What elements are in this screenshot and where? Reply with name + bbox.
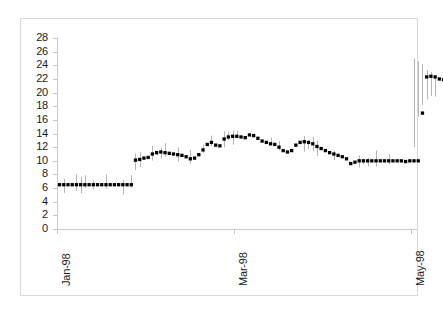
data-point-marker xyxy=(83,183,86,186)
data-point-marker xyxy=(429,75,432,78)
data-point-marker xyxy=(92,183,95,186)
data-point-marker xyxy=(58,183,61,186)
y-axis-tick-label: 8 xyxy=(24,168,48,179)
data-point-marker xyxy=(79,183,82,186)
data-point-marker xyxy=(231,135,234,138)
data-point-marker xyxy=(104,183,107,186)
data-point-marker xyxy=(163,151,166,154)
data-point-marker xyxy=(218,144,221,147)
y-axis-tick-label: 22 xyxy=(24,73,48,84)
data-point-marker xyxy=(260,139,263,142)
data-point-marker xyxy=(408,159,411,162)
data-point-marker xyxy=(180,154,183,157)
y-axis-tick-label: 12 xyxy=(24,141,48,152)
data-point-marker xyxy=(172,152,175,155)
data-point-marker xyxy=(125,183,128,186)
data-point-marker xyxy=(358,159,361,162)
data-point-marker xyxy=(168,152,171,155)
data-point-marker xyxy=(349,162,352,165)
data-point-marker xyxy=(214,144,217,147)
data-point-marker xyxy=(71,183,74,186)
close-markers-group xyxy=(58,75,443,187)
y-axis-tick-label: 14 xyxy=(24,128,48,139)
data-point-marker xyxy=(197,153,200,156)
data-point-marker xyxy=(273,143,276,146)
y-axis-tick-label: 20 xyxy=(24,87,48,98)
data-point-marker xyxy=(269,142,272,145)
data-point-marker xyxy=(75,183,78,186)
data-point-marker xyxy=(239,135,242,138)
data-point-marker xyxy=(176,153,179,156)
data-point-marker xyxy=(421,111,424,114)
data-point-marker xyxy=(324,149,327,152)
data-point-marker xyxy=(286,150,289,153)
y-axis-tick-label: 26 xyxy=(24,46,48,57)
range-lines-group xyxy=(65,58,443,194)
data-point-marker xyxy=(222,137,225,140)
data-point-marker xyxy=(121,183,124,186)
data-point-marker xyxy=(391,159,394,162)
data-point-marker xyxy=(265,141,268,144)
data-point-marker xyxy=(400,159,403,162)
data-point-marker xyxy=(404,160,407,163)
chart-figure: 0246810121416182022242628 Jan-98Mar-98Ma… xyxy=(0,0,443,319)
data-point-marker xyxy=(341,155,344,158)
data-point-marker xyxy=(438,77,441,80)
data-point-marker xyxy=(210,141,213,144)
data-point-marker xyxy=(294,144,297,147)
data-point-marker xyxy=(370,159,373,162)
data-point-marker xyxy=(353,161,356,164)
data-point-marker xyxy=(235,135,238,138)
y-axis-tick-label: 0 xyxy=(24,223,48,234)
data-point-marker xyxy=(113,183,116,186)
data-point-marker xyxy=(206,143,209,146)
data-point-marker xyxy=(66,183,69,186)
data-point-marker xyxy=(307,141,310,144)
data-point-marker xyxy=(147,156,150,159)
data-point-marker xyxy=(201,148,204,151)
data-point-marker xyxy=(282,149,285,152)
data-point-marker xyxy=(193,156,196,159)
data-point-marker xyxy=(96,183,99,186)
x-axis-tick-label: Jan-98 xyxy=(61,254,72,286)
data-point-marker xyxy=(185,155,188,158)
data-point-marker xyxy=(383,159,386,162)
data-point-marker xyxy=(396,159,399,162)
data-point-marker xyxy=(298,141,301,144)
data-point-marker xyxy=(366,159,369,162)
data-point-marker xyxy=(425,75,428,78)
y-axis-tick-label: 28 xyxy=(24,32,48,43)
x-axis-tick-label: Mar-98 xyxy=(238,252,249,286)
data-point-marker xyxy=(227,135,230,138)
data-point-marker xyxy=(379,159,382,162)
data-point-marker xyxy=(62,183,65,186)
y-axis-tick-label: 10 xyxy=(24,155,48,166)
data-point-marker xyxy=(151,152,154,155)
data-point-marker xyxy=(345,157,348,160)
x-axis-tick-label: May-98 xyxy=(415,251,426,286)
data-point-marker xyxy=(244,136,247,139)
data-point-marker xyxy=(417,159,420,162)
data-point-marker xyxy=(311,142,314,145)
data-point-marker xyxy=(155,151,158,154)
data-point-marker xyxy=(256,137,259,140)
data-point-marker xyxy=(320,147,323,150)
data-point-marker xyxy=(159,150,162,153)
data-point-marker xyxy=(433,75,436,78)
data-point-marker xyxy=(109,183,112,186)
data-point-marker xyxy=(189,157,192,160)
y-axis-tick-label: 18 xyxy=(24,100,48,111)
data-point-marker xyxy=(100,183,103,186)
data-point-marker xyxy=(362,159,365,162)
data-point-marker xyxy=(87,183,90,186)
data-point-marker xyxy=(252,134,255,137)
data-point-marker xyxy=(387,159,390,162)
data-point-marker xyxy=(315,145,318,148)
data-point-marker xyxy=(336,154,339,157)
data-point-marker xyxy=(332,152,335,155)
data-point-marker xyxy=(248,133,251,136)
data-point-marker xyxy=(142,156,145,159)
data-point-marker xyxy=(290,149,293,152)
data-point-marker xyxy=(138,158,141,161)
data-point-marker xyxy=(117,183,120,186)
